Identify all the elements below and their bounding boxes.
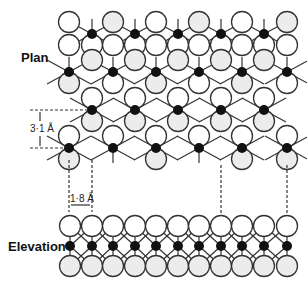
metal-atom-icon xyxy=(194,67,204,77)
metal-atom-icon xyxy=(237,241,247,251)
shaded-atom-icon xyxy=(168,50,189,71)
shaded-atom-icon xyxy=(82,256,103,277)
shaded-atom-icon xyxy=(103,256,124,277)
metal-atom-icon xyxy=(282,241,292,251)
shaded-atom-icon xyxy=(211,256,232,277)
metal-atom-icon xyxy=(194,241,204,251)
metal-atom-icon xyxy=(282,143,292,153)
metal-atom-icon xyxy=(216,29,226,39)
metal-atom-icon xyxy=(108,241,118,251)
light-atom-icon xyxy=(103,216,124,237)
vertical-dimension-label: 3·1 Å xyxy=(30,123,54,134)
metal-atom-icon xyxy=(64,67,74,77)
metal-atom-icon xyxy=(87,29,97,39)
shaded-atom-icon xyxy=(277,256,298,277)
metal-atom-icon xyxy=(87,241,97,251)
metal-atom-icon xyxy=(237,143,247,153)
metal-atom-icon xyxy=(259,29,269,39)
elevation-label: Elevation xyxy=(8,239,66,254)
shaded-atom-icon xyxy=(277,12,298,33)
metal-atom-icon xyxy=(194,143,204,153)
metal-atom-icon xyxy=(259,241,269,251)
metal-atom-icon xyxy=(130,29,140,39)
plan-label: Plan xyxy=(21,50,48,65)
shaded-atom-icon xyxy=(232,256,253,277)
shaded-atom-icon xyxy=(125,50,146,71)
shaded-atom-icon xyxy=(211,50,232,71)
metal-atom-icon xyxy=(173,105,183,115)
shaded-atom-icon xyxy=(103,12,124,33)
light-atom-icon xyxy=(254,216,275,237)
metal-atom-icon xyxy=(259,105,269,115)
metal-atom-icon xyxy=(237,67,247,77)
light-atom-icon xyxy=(277,35,298,56)
light-atom-icon xyxy=(232,35,253,56)
light-atom-icon xyxy=(232,216,253,237)
shaded-atom-icon xyxy=(189,12,210,33)
metal-atom-icon xyxy=(151,67,161,77)
horizontal-dimension-label: 1·8 Å xyxy=(70,193,94,204)
light-atom-icon xyxy=(146,12,167,33)
light-atom-icon xyxy=(146,216,167,237)
shaded-atom-icon xyxy=(254,50,275,71)
metal-atom-icon xyxy=(108,143,118,153)
metal-atom-icon xyxy=(173,29,183,39)
light-atom-icon xyxy=(60,216,81,237)
shaded-atom-icon xyxy=(60,256,81,277)
metal-atom-icon xyxy=(130,105,140,115)
metal-atom-icon xyxy=(87,105,97,115)
metal-atom-icon xyxy=(130,241,140,251)
light-atom-icon xyxy=(277,216,298,237)
light-atom-icon xyxy=(211,216,232,237)
metal-atom-icon xyxy=(151,143,161,153)
metal-atom-icon xyxy=(173,241,183,251)
light-atom-icon xyxy=(146,35,167,56)
metal-atom-icon xyxy=(151,241,161,251)
light-atom-icon xyxy=(189,216,210,237)
metal-atom-icon xyxy=(282,67,292,77)
shaded-atom-icon xyxy=(254,256,275,277)
light-atom-icon xyxy=(82,216,103,237)
shaded-atom-icon xyxy=(82,50,103,71)
shaded-atom-icon xyxy=(146,256,167,277)
light-atom-icon xyxy=(59,12,80,33)
shaded-atom-icon xyxy=(168,256,189,277)
metal-atom-icon xyxy=(216,105,226,115)
light-atom-icon xyxy=(232,12,253,33)
shaded-atom-icon xyxy=(189,256,210,277)
metal-atom-icon xyxy=(65,241,75,251)
metal-atom-icon xyxy=(108,67,118,77)
light-atom-icon xyxy=(59,35,80,56)
shaded-atom-icon xyxy=(125,256,146,277)
light-atom-icon xyxy=(189,35,210,56)
metal-atom-icon xyxy=(216,241,226,251)
light-atom-icon xyxy=(168,216,189,237)
light-atom-icon xyxy=(125,216,146,237)
light-atom-icon xyxy=(103,35,124,56)
